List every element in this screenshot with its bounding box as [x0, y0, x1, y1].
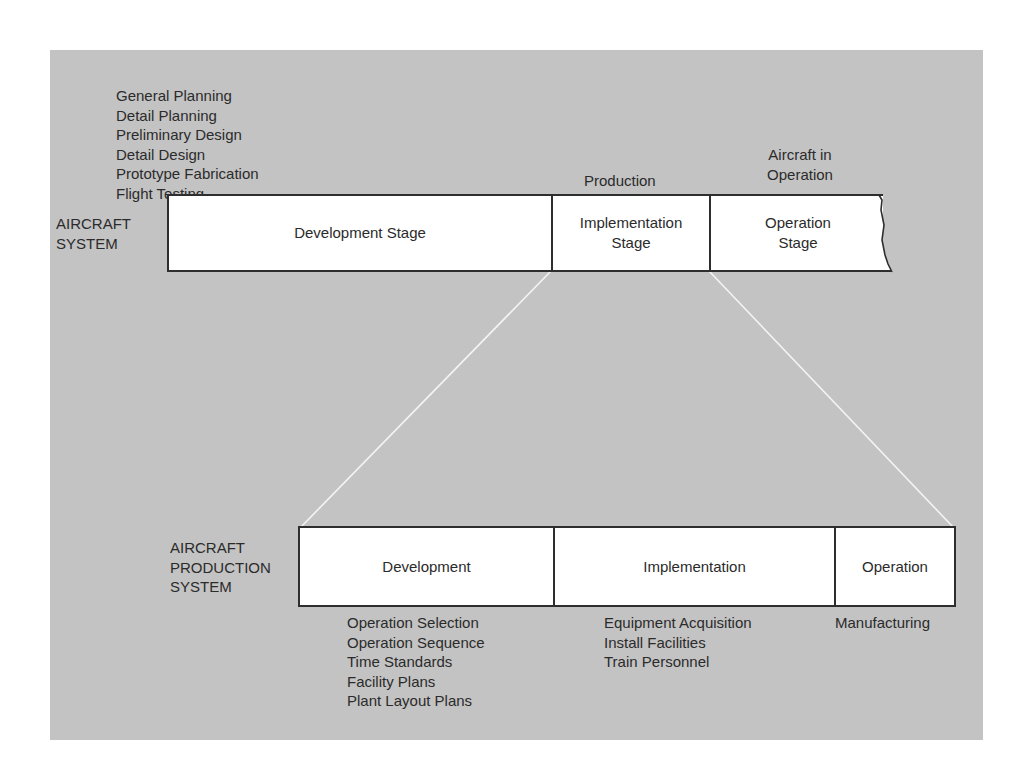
aircraft-production-system-bar: Development Implementation Operation [298, 526, 956, 607]
torn-edge [0, 0, 1017, 774]
stage-label: Operation [862, 557, 928, 577]
stage-label: Implementation [643, 557, 746, 577]
aircraft-production-system-label: AIRCRAFT PRODUCTION SYSTEM [170, 538, 271, 597]
task-item: Operation Sequence [347, 633, 485, 653]
task-item: Plant Layout Plans [347, 691, 485, 711]
task-item: Train Personnel [604, 652, 752, 672]
task-item: Install Facilities [604, 633, 752, 653]
task-item: Time Standards [347, 652, 485, 672]
task-item: Manufacturing [835, 613, 930, 633]
task-item: Facility Plans [347, 672, 485, 692]
operation-tasks-list: Manufacturing [835, 613, 930, 633]
label-line: PRODUCTION [170, 558, 271, 578]
development-phase: Development [300, 528, 553, 605]
operation-phase: Operation [834, 528, 954, 605]
task-item: Operation Selection [347, 613, 485, 633]
stage-label: Development [382, 557, 470, 577]
development-tasks-list: Operation Selection Operation Sequence T… [347, 613, 485, 711]
label-line: SYSTEM [170, 577, 271, 597]
implementation-phase: Implementation [553, 528, 834, 605]
implementation-tasks-list: Equipment Acquisition Install Facilities… [604, 613, 752, 672]
task-item: Equipment Acquisition [604, 613, 752, 633]
label-line: AIRCRAFT [170, 538, 271, 558]
